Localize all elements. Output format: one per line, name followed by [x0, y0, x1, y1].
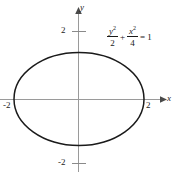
equation-term-2-denominator: 4 [128, 37, 137, 48]
equation-term-1-exponent: 2 [113, 25, 116, 31]
equation-equals-sign: = [139, 33, 146, 42]
equation-term-2: x2 4 [127, 26, 138, 49]
x-axis-label: x [167, 94, 171, 103]
equation-right-hand-side: 1 [146, 33, 152, 42]
equation-term-1: y2 2 [107, 26, 118, 49]
equation-annotation: y2 2 + x2 4 = 1 [106, 26, 152, 49]
equation-operator-plus: + [119, 33, 126, 42]
equation-term-1-denominator: 2 [108, 37, 117, 48]
y-tick-label-negative-2: -2 [58, 158, 66, 167]
y-tick-label-positive-2: 2 [61, 26, 66, 35]
equation-term-2-numerator: x2 [127, 26, 138, 37]
equation-term-1-numerator: y2 [107, 26, 118, 37]
x-tick-label-positive-2: 2 [146, 101, 151, 110]
x-axis-arrow [160, 96, 167, 103]
ellipse-figure: -2 2 2 -2 x y y2 2 + x2 4 = 1 [0, 0, 178, 175]
equation-term-2-exponent: 2 [133, 25, 136, 31]
x-tick-label-negative-2: -2 [3, 101, 11, 110]
y-axis-label: y [80, 3, 84, 12]
